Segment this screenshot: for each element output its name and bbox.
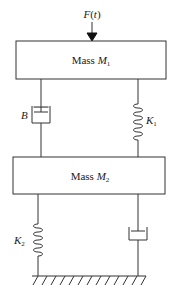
mass-1-label: Mass M1 [72, 54, 111, 68]
force-arrow-icon [87, 22, 97, 41]
spring-k2-label: K2 [13, 234, 25, 248]
spring-k1-icon [134, 79, 143, 157]
spring-k1-label: K1 [145, 114, 157, 128]
force-label: F(t) [82, 8, 100, 21]
damper-b-icon [32, 79, 50, 157]
spring-k2-icon [34, 194, 43, 276]
damper-bottom-icon [129, 194, 147, 276]
damper-b-label: B [21, 109, 28, 121]
mass-2-label: Mass M2 [71, 170, 110, 184]
spring-mass-damper-diagram: F(t) Mass M1 B K1 Mass M2 K2 [0, 0, 176, 305]
ground-hatch-icon [32, 276, 146, 285]
